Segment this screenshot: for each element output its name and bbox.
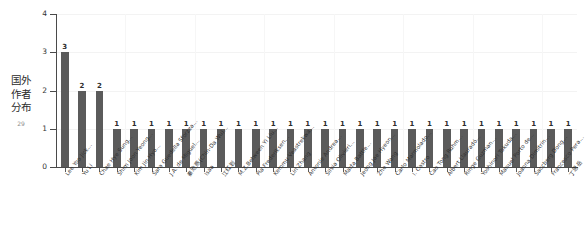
bar-item[interactable]: 1 (460, 14, 468, 167)
y-tick: 2 (50, 91, 56, 92)
y-axis-line (56, 14, 57, 168)
x-axis-labels: Lee Yoo Jick…Yu LiChae Hye Sung…Shim Joo… (56, 173, 578, 248)
bar-value-label: 1 (558, 120, 578, 128)
y-tick-label: 0 (42, 162, 47, 171)
bar-item[interactable]: 1 (304, 14, 312, 167)
bar-item[interactable]: 1 (269, 14, 277, 167)
bar-item[interactable]: 3 (61, 14, 69, 167)
y-tick: 0 (50, 167, 56, 168)
side-caption-text: 国外作者分布 (10, 74, 32, 115)
page-number: 29 (10, 117, 32, 131)
bar-value-label: 3 (55, 43, 75, 51)
gridline-vertical (403, 14, 404, 167)
bar-item[interactable]: 1 (408, 14, 416, 167)
y-tick: 1 (50, 129, 56, 130)
bar-item[interactable]: 1 (130, 14, 138, 167)
y-tick-label: 4 (42, 9, 47, 18)
y-tick-label: 1 (42, 124, 47, 133)
y-tick: 3 (50, 52, 56, 53)
bar-rect[interactable] (61, 52, 69, 167)
y-tick-label: 2 (42, 86, 47, 95)
bar-item[interactable]: 2 (78, 14, 86, 167)
bar-chart: 文献数（篇） 322111111111111111111111111111 01… (40, 8, 583, 248)
y-tick: 4 (50, 14, 56, 15)
bar-item[interactable]: 1 (235, 14, 243, 167)
y-tick-label: 3 (42, 47, 47, 56)
bar-item[interactable]: 1 (391, 14, 399, 167)
bar-item[interactable]: 1 (217, 14, 225, 167)
bar-rect[interactable] (96, 91, 104, 168)
side-caption: 国外作者分布 29 (10, 74, 32, 130)
bar-value-label: 2 (89, 82, 109, 90)
bar-item[interactable]: 2 (96, 14, 104, 167)
bar-item[interactable]: 1 (165, 14, 173, 167)
bar-item[interactable]: 1 (547, 14, 555, 167)
plot-area: 322111111111111111111111111111 (56, 14, 577, 167)
bar-item[interactable]: 1 (426, 14, 434, 167)
bar-item[interactable]: 1 (356, 14, 364, 167)
